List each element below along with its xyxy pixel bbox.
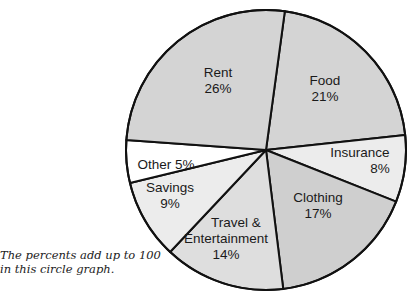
- slice-label-food: Food21%: [310, 73, 341, 104]
- slice-label-rent: Rent26%: [204, 65, 233, 96]
- caption-line-1: The percents add up to 100: [0, 248, 170, 262]
- chart-caption: The percents add up to 100 in this circl…: [0, 248, 170, 276]
- caption-line-2: in this circle graph.: [0, 262, 170, 276]
- slice-label-other: Other 5%: [137, 157, 194, 172]
